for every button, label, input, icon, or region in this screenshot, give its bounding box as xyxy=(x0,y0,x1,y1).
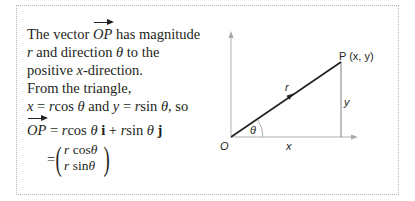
point-p-label: P (x, y) xyxy=(339,50,374,62)
x-axis-arrow-icon xyxy=(351,135,358,140)
angle-label: θ xyxy=(250,124,256,136)
vector-diagram: P (x, y) O r θ x y xyxy=(0,0,415,201)
hypotenuse-label: r xyxy=(285,81,290,93)
y-side-label: y xyxy=(343,96,351,108)
y-axis-arrow-icon xyxy=(229,31,234,38)
x-side-label: x xyxy=(285,140,292,152)
angle-arc xyxy=(258,120,264,138)
vector-op-line xyxy=(231,62,341,137)
origin-label: O xyxy=(220,140,229,152)
